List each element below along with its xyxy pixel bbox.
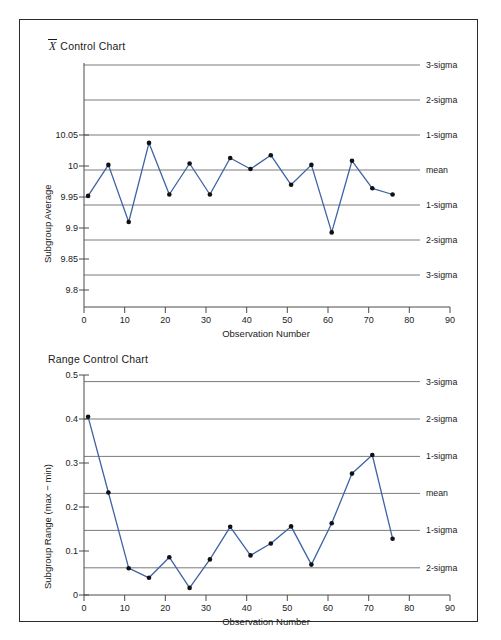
range-xtick-30: 30 xyxy=(201,603,211,613)
xbar-xtick-60: 60 xyxy=(323,315,333,325)
xbar-label-lower-2sigma: 2-sigma xyxy=(426,235,457,245)
range-xtick-90: 90 xyxy=(445,603,455,613)
xbar-xtick-20: 20 xyxy=(160,315,170,325)
range-label-upper-1sigma: 1-sigma xyxy=(426,451,457,461)
range-plot-canvas xyxy=(20,350,479,623)
range-label-mean: mean xyxy=(426,488,448,498)
xbar-xtick-30: 30 xyxy=(201,315,211,325)
range-xtick-10: 10 xyxy=(120,603,130,613)
screenshot-root: X Control Chart Subgroup Average 10.05 1… xyxy=(0,0,501,640)
range-label-upper-3sigma: 3-sigma xyxy=(426,377,457,387)
range-label-lower-1sigma: 1-sigma xyxy=(426,525,457,535)
xbar-xtick-50: 50 xyxy=(282,315,292,325)
xbar-plot-canvas xyxy=(20,20,479,330)
range-series-markers xyxy=(86,415,395,591)
range-xtick-60: 60 xyxy=(323,603,333,613)
range-xtick-40: 40 xyxy=(242,603,252,613)
xbar-label-upper-1sigma: 1-sigma xyxy=(426,130,457,140)
range-xtick-70: 70 xyxy=(364,603,374,613)
xbar-xtick-70: 70 xyxy=(364,315,374,325)
xbar-control-chart: X Control Chart Subgroup Average 10.05 1… xyxy=(20,20,477,330)
xbar-label-mean: mean xyxy=(426,165,448,175)
range-xtick-0: 0 xyxy=(81,603,86,613)
xbar-xtick-10: 10 xyxy=(120,315,130,325)
xbar-label-upper-3sigma: 3-sigma xyxy=(426,60,457,70)
xbar-series-line xyxy=(88,143,393,233)
xbar-xtick-80: 80 xyxy=(404,315,414,325)
xbar-label-lower-1sigma: 1-sigma xyxy=(426,200,457,210)
xbar-xtick-40: 40 xyxy=(242,315,252,325)
range-series-line xyxy=(88,417,393,588)
xbar-x-axis-title: Observation Number xyxy=(196,328,336,339)
xbar-xtick-0: 0 xyxy=(81,315,86,325)
range-xtick-20: 20 xyxy=(160,603,170,613)
xbar-xtick-90: 90 xyxy=(445,315,455,325)
range-x-axis-title: Observation Number xyxy=(196,616,336,627)
xbar-label-lower-3sigma: 3-sigma xyxy=(426,270,457,280)
range-control-chart: Range Control Chart Subgroup Range (max … xyxy=(20,350,477,623)
range-label-lower-2sigma: 2-sigma xyxy=(426,563,457,573)
range-xtick-50: 50 xyxy=(282,603,292,613)
xbar-label-upper-2sigma: 2-sigma xyxy=(426,95,457,105)
range-xtick-80: 80 xyxy=(404,603,414,613)
range-label-upper-2sigma: 2-sigma xyxy=(426,414,457,424)
figure-frame: X Control Chart Subgroup Average 10.05 1… xyxy=(19,19,478,622)
xbar-series-markers xyxy=(86,141,395,235)
